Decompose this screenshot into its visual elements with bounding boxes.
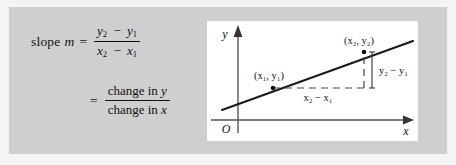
point-1-label: (x₁, y₁) [254,70,285,82]
denominator-operator: − [110,43,123,58]
change-denominator-variable: x [161,102,167,117]
change-denominator: change in x [105,103,170,117]
y-axis [234,25,243,133]
numerator-operator: − [110,23,123,38]
point-2-label: (x₂, y₂) [344,35,375,47]
numerator-term-1: y2 [97,23,107,38]
fraction-bar-2 [105,100,170,101]
slope-formula-line-1: slopem = y2 − y1 x2 − x1 [31,24,140,59]
denominator-term-1: x2 [97,43,107,58]
point-2-marker [362,50,367,55]
equals-sign-1: = [79,34,87,50]
run-label: x₂ − x₁ [304,92,333,103]
slope-graph: y x O (x₁, y₁) (x₂, y₂) y₂ − y₁ x₂ − x₁ [207,21,418,141]
fraction-bar-1 [94,41,140,42]
slope-formula-line-2: = change in y change in x [90,84,170,117]
slope-formula-block: slopem = y2 − y1 x2 − x1 = change in y [18,18,198,136]
denominator-term-2: x1 [127,43,137,58]
change-numerator: change in y [105,84,170,98]
change-fraction: change in y change in x [105,84,170,117]
fraction-numerator: y2 − y1 [94,24,140,39]
rise-label: y₂ − y₁ [379,65,408,76]
slope-label: slopem [31,34,74,50]
x-axis-label: x [402,124,409,138]
change-numerator-variable: y [161,83,167,98]
origin-label: O [222,122,231,136]
x-axis [211,116,414,125]
slope-word: slope [31,34,61,49]
equals-sign-2: = [90,93,98,109]
fraction-denominator: x2 − x1 [94,44,140,59]
y-axis-label: y [221,27,228,41]
point-1-marker [271,86,276,91]
slope-fraction: y2 − y1 x2 − x1 [94,24,140,59]
figure-container: slopem = y2 − y1 x2 − x1 = change in y [0,0,456,165]
graph-panel: y x O (x₁, y₁) (x₂, y₂) y₂ − y₁ x₂ − x₁ [207,21,418,141]
numerator-term-2: y1 [127,23,137,38]
slope-variable-m: m [65,34,75,49]
